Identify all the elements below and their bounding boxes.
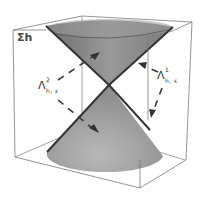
lambda1-sub: h, ε — [165, 78, 178, 84]
lambda2-label: Λ 2 h, ε — [38, 80, 46, 91]
lambda1-label: Λ 1 h, ε — [157, 70, 165, 81]
lower-cone — [47, 85, 163, 172]
arrowhead-icon — [149, 109, 156, 118]
lambda2-sup: 2 — [46, 77, 50, 83]
double-cone-diagram: Σh Λ 2 h, ε Λ 1 h, ε — [0, 0, 204, 198]
arrowhead-icon — [138, 62, 147, 69]
lambda2-base: Λ — [38, 79, 46, 92]
upper-cone — [46, 19, 173, 85]
lambda1-base: Λ — [157, 69, 165, 82]
diagram-canvas — [0, 0, 204, 198]
lambda1-sup: 1 — [165, 67, 169, 73]
lambda2-sub: h, ε — [46, 88, 59, 94]
surface-label: Σh — [17, 32, 32, 43]
